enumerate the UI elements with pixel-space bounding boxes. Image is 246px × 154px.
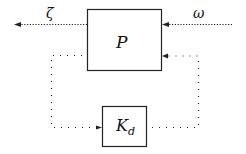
block-p-label: P [116,32,127,52]
block-kd-label: Kd [116,116,135,138]
output-arrowhead-icon [14,22,21,27]
kd-input-arrowhead-icon [96,126,102,130]
output-signal-label: ζ [46,5,54,21]
kd-main: K [116,116,128,135]
p-input-arrowhead-icon [162,54,168,59]
kd-subscript: d [128,125,135,138]
feedback-right-path [152,56,199,128]
feedback-left-path [52,56,97,128]
input-signal-label: ω [193,5,204,21]
input-arrowhead-icon [162,22,169,27]
